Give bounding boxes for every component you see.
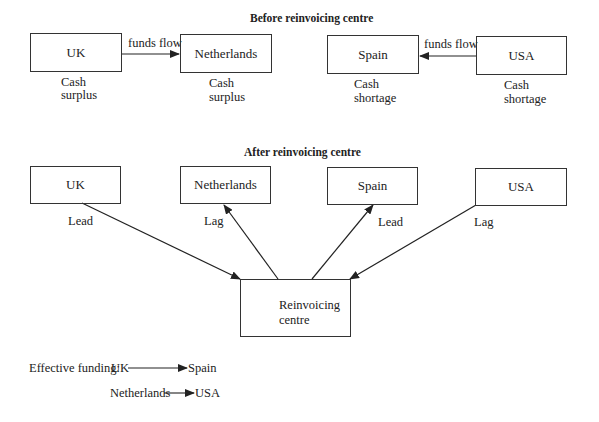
before-usa-note-line2: shortage [504, 92, 546, 106]
before-node-uk: UK [30, 33, 122, 72]
before-spain-note-line2: shortage [354, 91, 396, 105]
reinvoicing-centre-node: Reinvoicing centre [240, 279, 351, 337]
effective-funding-prefix: Effective funding: [29, 361, 120, 375]
arrow-centre-to-netherlands [224, 205, 278, 279]
arrow-usa-to-centre [350, 205, 476, 279]
effective-row1-to: Spain [188, 361, 216, 375]
before-uk-note-line2: surplus [61, 88, 97, 102]
node-label: UK [66, 177, 85, 193]
before-uk-note-line1: Cash [61, 75, 86, 89]
after-node-usa: USA [475, 168, 567, 206]
before-usa-note-line1: Cash [504, 78, 529, 92]
effective-row2-from: Netherlands [110, 386, 170, 400]
before-node-netherlands: Netherlands [180, 34, 272, 73]
arrow-centre-to-spain [312, 205, 373, 279]
before-node-usa: USA [476, 36, 567, 75]
before-netherlands-note-line2: surplus [209, 90, 245, 104]
after-spain-edge-label: Lead [378, 215, 403, 229]
centre-label-line2: centre [279, 313, 340, 328]
node-label: Netherlands [195, 46, 258, 62]
after-uk-edge-label: Lead [68, 214, 93, 228]
effective-row1-from: UK [111, 361, 129, 375]
node-label: USA [508, 48, 534, 64]
node-label: Netherlands [194, 177, 257, 193]
node-label: USA [508, 179, 534, 195]
after-node-uk: UK [30, 166, 121, 204]
node-label: Spain [358, 178, 388, 194]
before-netherlands-note-line1: Cash [209, 76, 234, 90]
node-label: Spain [358, 47, 388, 63]
before-flow-label-2: funds flow [424, 37, 478, 51]
before-node-spain: Spain [327, 35, 419, 74]
after-netherlands-edge-label: Lag [204, 214, 223, 228]
after-node-netherlands: Netherlands [180, 166, 271, 204]
after-node-spain: Spain [327, 167, 418, 205]
before-title: Before reinvoicing centre [250, 12, 373, 24]
before-spain-note-line1: Cash [354, 77, 379, 91]
after-title: After reinvoicing centre [244, 146, 361, 158]
effective-row2-to: USA [195, 386, 220, 400]
after-usa-edge-label: Lag [474, 215, 493, 229]
node-label: UK [67, 45, 86, 61]
before-flow-label-1: funds flow [128, 36, 182, 50]
centre-label-line1: Reinvoicing [279, 298, 340, 313]
